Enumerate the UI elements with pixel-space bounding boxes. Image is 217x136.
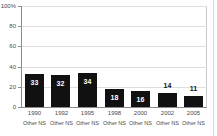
x-axis-label-group: 1990Other NS	[21, 110, 48, 127]
bar-value-label: 11	[184, 85, 203, 92]
x-axis-series-label: Other NS	[48, 120, 75, 127]
x-axis-year-label: 1998	[101, 110, 128, 117]
x-axis-label-group: 1992Other NS	[48, 110, 75, 127]
x-axis-label-group: 2000Other NS	[127, 110, 154, 127]
x-axis-series-label: Other NS	[180, 120, 207, 127]
bar	[184, 96, 203, 107]
bar-value-label: 18	[105, 94, 124, 101]
x-axis-series-label: Other NS	[127, 120, 154, 127]
x-axis-series-label: Other NS	[21, 120, 48, 127]
bar-value-label: 33	[25, 79, 44, 86]
bar-value-label: 16	[131, 96, 150, 103]
bar-value-label: 14	[158, 82, 177, 89]
bar	[158, 93, 177, 107]
x-axis-year-label: 2002	[154, 110, 181, 117]
bar-value-label: 34	[78, 78, 97, 85]
x-axis-series-label: Other NS	[101, 120, 128, 127]
x-axis-year-label: 1995	[74, 110, 101, 117]
x-axis-year-label: 2005	[180, 110, 207, 117]
x-axis-year-label: 2000	[127, 110, 154, 117]
x-axis-label-group: 1995Other NS	[74, 110, 101, 127]
x-axis-labels: 1990Other NS1992Other NS1995Other NS1998…	[0, 110, 217, 136]
x-axis-series-label: Other NS	[154, 120, 181, 127]
bar-value-label: 32	[51, 80, 70, 87]
x-axis-label-group: 2005Other NS	[180, 110, 207, 127]
x-axis-year-label: 1990	[21, 110, 48, 117]
x-axis-series-label: Other NS	[74, 120, 101, 127]
x-axis-label-group: 2002Other NS	[154, 110, 181, 127]
x-axis-year-label: 1992	[48, 110, 75, 117]
x-axis-label-group: 1998Other NS	[101, 110, 128, 127]
bar-chart: 100%806040200 33323418161411 1990Other N…	[0, 0, 217, 136]
